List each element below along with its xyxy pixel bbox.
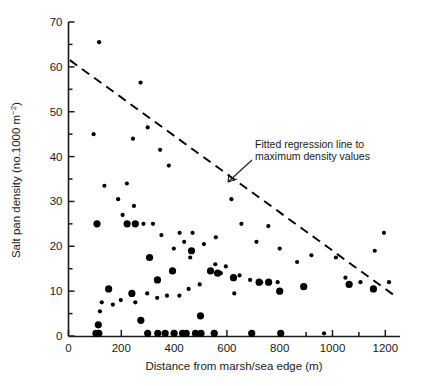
scatter-point: [138, 80, 142, 84]
scatter-point: [172, 246, 176, 250]
scatter-point: [131, 137, 135, 141]
scatter-point: [254, 240, 258, 244]
scatter-point: [334, 255, 338, 259]
scatter-point: [266, 224, 270, 228]
scatter-point: [370, 285, 377, 292]
scatter-point: [214, 235, 218, 239]
y-axis-tick-label: 0: [56, 330, 62, 342]
scatter-point: [167, 163, 171, 167]
scatter-point: [144, 330, 151, 337]
y-axis-tick-label: 50: [50, 106, 63, 118]
scatter-point: [155, 296, 159, 300]
scatter-point: [224, 264, 228, 268]
scatter-point: [141, 222, 145, 226]
scatter-point: [198, 282, 202, 286]
y-axis-title-main: Salt pan density (no.1000 m: [10, 115, 22, 258]
annotation-leader-line: [228, 160, 252, 182]
scatter-point: [230, 274, 237, 281]
scatter-point: [188, 247, 195, 254]
x-axis-tick-label: 1000: [320, 342, 346, 354]
scatter-point: [213, 262, 217, 266]
x-axis-tick-label: 200: [112, 342, 131, 354]
scatter-point: [137, 317, 144, 324]
scatter-point: [373, 249, 377, 253]
scatter-point: [91, 132, 95, 136]
x-axis-ticks: [69, 330, 386, 336]
scatter-point: [93, 220, 100, 227]
scatter-point: [239, 222, 243, 226]
scatter-series-large-markers: [92, 220, 377, 337]
scatter-point: [211, 330, 218, 337]
scatter-point: [188, 255, 192, 259]
x-axis-tick-label: 0: [65, 342, 71, 354]
scatter-point: [171, 330, 178, 337]
scatter-point: [154, 330, 161, 337]
scatter-point: [182, 240, 186, 244]
scatter-point: [162, 330, 169, 337]
y-axis-tick-label: 10: [50, 285, 63, 297]
scatter-point: [133, 300, 137, 304]
scatter-point: [97, 40, 101, 44]
scatter-point: [132, 204, 136, 208]
x-axis-tick-label: 1200: [373, 342, 399, 354]
scatter-point: [183, 330, 190, 337]
y-axis-ticks: [69, 22, 75, 336]
y-axis-tick-label: 40: [50, 151, 63, 163]
scatter-point: [265, 279, 272, 286]
scatter-point: [178, 231, 182, 235]
scatter-series-small-markers: [91, 40, 391, 335]
scatter-point: [248, 278, 252, 282]
scatter-point: [151, 222, 155, 226]
scatter-point: [95, 321, 102, 328]
scatter-point: [343, 276, 347, 280]
scatter-point: [154, 276, 161, 283]
scatter-point: [105, 285, 112, 292]
scatter-point: [132, 220, 139, 227]
scatter-point: [207, 267, 214, 274]
scatter-point: [276, 288, 283, 295]
scatter-point: [277, 330, 284, 337]
y-axis-tick-label: 60: [50, 61, 63, 73]
chart-canvas: 010203040506070 020040060080010001200 Fi…: [0, 0, 424, 386]
scatter-point: [119, 298, 123, 302]
scatter-point: [275, 280, 279, 284]
scatter-point: [278, 246, 282, 250]
scatter-point: [111, 303, 115, 307]
scatter-point: [387, 280, 391, 284]
y-axis-tick-labels: 010203040506070: [50, 16, 63, 342]
scatter-point: [159, 233, 163, 237]
scatter-point: [322, 331, 326, 335]
x-axis-tick-label: 600: [217, 342, 236, 354]
scatter-point: [100, 300, 104, 304]
scatter-point: [116, 197, 120, 201]
scatter-point: [382, 231, 386, 235]
scatter-point: [165, 294, 169, 298]
scatter-point: [146, 125, 150, 129]
scatter-point: [300, 283, 307, 290]
scatter-point: [128, 290, 135, 297]
x-axis-title: Distance from marsh/sea edge (m): [145, 360, 322, 372]
scatter-point: [358, 280, 362, 284]
x-axis-tick-labels: 020040060080010001200: [65, 342, 398, 354]
x-axis-tick-label: 800: [270, 342, 289, 354]
scatter-point: [145, 291, 149, 295]
scatter-point: [190, 231, 194, 235]
y-axis-tick-label: 20: [50, 240, 63, 252]
scatter-point: [187, 287, 191, 291]
scatter-plot-figure: 010203040506070 020040060080010001200 Fi…: [0, 0, 424, 386]
scatter-point: [237, 273, 241, 277]
scatter-point: [346, 281, 353, 288]
y-axis-tick-label: 30: [50, 195, 63, 207]
scatter-point: [256, 279, 263, 286]
scatter-point: [229, 197, 233, 201]
annotation-text-line2: maximum density values: [255, 150, 370, 162]
scatter-point: [177, 294, 181, 298]
scatter-point: [98, 309, 102, 313]
scatter-point: [158, 148, 162, 152]
scatter-point: [124, 220, 131, 227]
scatter-point: [102, 184, 106, 188]
scatter-point: [197, 330, 204, 337]
scatter-point: [169, 267, 176, 274]
scatter-point: [125, 181, 129, 185]
scatter-point: [197, 312, 204, 319]
